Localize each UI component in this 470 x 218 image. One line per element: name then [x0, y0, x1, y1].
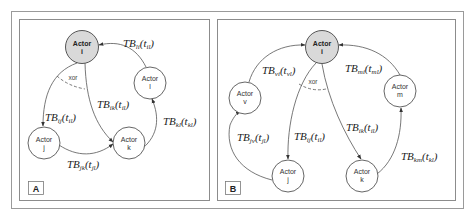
- actor-id: v: [243, 98, 247, 105]
- node-b-actor-v: Actor v: [229, 82, 261, 114]
- node-b-actor-k: Actor k: [346, 160, 378, 192]
- actor-id: k: [127, 144, 131, 151]
- actor-label: Actor: [392, 83, 409, 90]
- actor-id: m: [397, 91, 403, 98]
- actor-circle: [306, 31, 339, 64]
- actor-label: Actor: [73, 40, 92, 47]
- node-a-actor-j: Actor j: [28, 127, 60, 159]
- actor-id: j: [42, 144, 45, 152]
- panel-b: xor Actor i Actor v Actor m Actor j Acto…: [218, 20, 456, 201]
- actor-id: i: [81, 48, 83, 55]
- actor-label: Actor: [36, 136, 53, 143]
- actor-label: Actor: [313, 40, 332, 47]
- node-b-actor-m: Actor m: [384, 75, 416, 107]
- xor-label-a: xor: [68, 74, 78, 81]
- actor-circle: [113, 127, 145, 159]
- actor-label: Actor: [280, 168, 297, 175]
- actor-circle: [66, 31, 99, 64]
- panel-a-tag: A: [33, 184, 40, 194]
- actor-id: j: [286, 176, 289, 184]
- actor-label: Actor: [121, 136, 138, 143]
- panel-b-tag: B: [230, 184, 237, 194]
- actor-id: i: [321, 48, 323, 55]
- xor-label-b: xor: [308, 78, 318, 85]
- actor-label: Actor: [237, 90, 254, 97]
- actor-label: Actor: [354, 168, 371, 175]
- actor-interaction-diagram: xor Actor i Actor l Actor j Actor k TBli…: [0, 0, 470, 218]
- node-b-actor-i: Actor i: [306, 31, 339, 64]
- panel-a: xor Actor i Actor l Actor j Actor k TBli…: [20, 20, 210, 201]
- actor-circle: [28, 127, 60, 159]
- node-a-actor-i: Actor i: [66, 31, 99, 64]
- node-a-actor-l: Actor l: [134, 67, 166, 99]
- actor-id: k: [360, 176, 364, 183]
- node-b-actor-j: Actor j: [272, 160, 304, 192]
- actor-label: Actor: [142, 75, 159, 82]
- node-a-actor-k: Actor k: [113, 127, 145, 159]
